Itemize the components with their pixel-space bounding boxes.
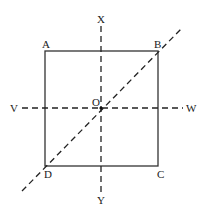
- label-d: D: [44, 168, 52, 180]
- label-v: V: [10, 102, 18, 114]
- symmetry-diagram: A B C D O X Y V W: [0, 0, 206, 213]
- label-y: Y: [97, 194, 105, 206]
- label-x: X: [97, 13, 105, 25]
- diagram-svg: A B C D O X Y V W: [0, 0, 206, 213]
- label-w: W: [186, 102, 197, 114]
- label-o: O: [92, 96, 100, 108]
- label-b: B: [154, 38, 161, 50]
- label-a: A: [42, 38, 50, 50]
- label-c: C: [157, 168, 164, 180]
